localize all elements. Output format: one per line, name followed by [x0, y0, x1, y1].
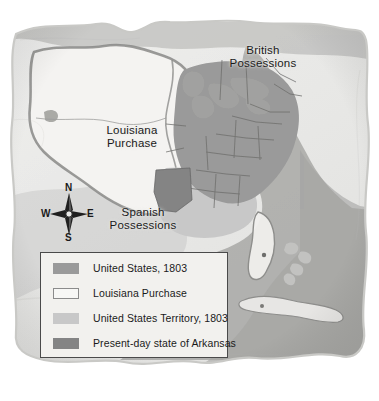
legend-swatch-united-states-1803	[53, 263, 79, 274]
map-legend: United States, 1803 Louisiana Purchase U…	[40, 252, 228, 358]
legend-swatch-united-states-territory-1803	[53, 313, 79, 324]
legend-label-united-states-territory-1803: United States Territory, 1803	[93, 312, 228, 324]
legend-label-present-day-arkansas: Present-day state of Arkansas	[93, 337, 236, 349]
compass-rose: N E S W	[40, 183, 98, 245]
legend-item-present-day-arkansas: Present-day state of Arkansas	[53, 334, 236, 352]
legend-label-louisiana-purchase: Louisiana Purchase	[93, 287, 187, 299]
compass-west-label: W	[41, 209, 50, 219]
compass-north-label: N	[65, 183, 72, 193]
legend-item-united-states-1803: United States, 1803	[53, 259, 187, 277]
label-british-possessions: British Possessions	[220, 44, 306, 70]
map-figure: N E S W Louisiana Purchase British Posse…	[0, 0, 379, 401]
label-louisiana-purchase-line2: Purchase	[88, 137, 176, 150]
label-british-possessions-line2: Possessions	[220, 57, 306, 70]
legend-swatch-louisiana-purchase	[53, 288, 79, 299]
legend-item-united-states-territory-1803: United States Territory, 1803	[53, 309, 228, 327]
compass-east-label: E	[87, 209, 94, 219]
legend-swatch-present-day-arkansas	[53, 338, 79, 349]
legend-item-louisiana-purchase: Louisiana Purchase	[53, 284, 187, 302]
label-louisiana-purchase-line1: Louisiana	[88, 124, 176, 137]
label-louisiana-purchase: Louisiana Purchase	[88, 124, 176, 150]
compass-south-label: S	[65, 233, 72, 243]
legend-label-united-states-1803: United States, 1803	[93, 262, 187, 274]
label-spanish-possessions: Spanish Possessions	[100, 206, 186, 232]
label-spanish-possessions-line1: Spanish	[100, 206, 186, 219]
label-spanish-possessions-line2: Possessions	[100, 219, 186, 232]
label-british-possessions-line1: British	[220, 44, 306, 57]
